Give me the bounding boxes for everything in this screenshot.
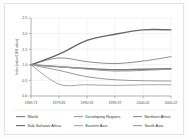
chart-legend: World Developing Regions Northern Africa…	[13, 110, 177, 128]
y-axis-title: Index (value/1969 value)	[15, 39, 19, 75]
x-axis-tick-labels: 1969-71 1979-81 1990-92 1995-97 2000-02 …	[24, 101, 177, 105]
x-tick-label: 2005-07	[164, 101, 177, 105]
x-axis-ticks	[31, 96, 171, 98]
chart-card: 2.5 2.0 1.5 1.0 0.5 0.0 Index (value/196…	[4, 3, 184, 135]
legend-label-world: World	[28, 114, 38, 119]
y-tick-label: 0.0	[22, 94, 27, 98]
line-chart-figure: 2.5 2.0 1.5 1.0 0.5 0.0 Index (value/196…	[5, 4, 183, 134]
screenshot-root: 2.5 2.0 1.5 1.0 0.5 0.0 Index (value/196…	[0, 0, 188, 138]
legend-label-south-asia: South Asia	[145, 123, 164, 128]
y-tick-label: 1.5	[22, 48, 27, 52]
y-tick-label: 0.5	[22, 79, 27, 83]
legend-label-sub-saharan-africa: Sub-Saharan Africa	[28, 123, 63, 128]
y-axis-tick-labels: 2.5 2.0 1.5 1.0 0.5 0.0	[22, 16, 27, 98]
x-tick-label: 2000-02	[136, 101, 149, 105]
x-tick-label: 1995-97	[108, 101, 121, 105]
y-tick-label: 1.0	[22, 63, 27, 67]
x-tick-label: 1969-71	[24, 101, 37, 105]
legend-label-northern-africa: Northern Africa	[145, 114, 172, 119]
y-tick-label: 2.5	[22, 16, 27, 20]
y-axis-ticks	[29, 18, 31, 96]
y-tick-label: 2.0	[22, 32, 27, 36]
x-tick-label: 1979-81	[52, 101, 65, 105]
x-tick-label: 1990-92	[80, 101, 93, 105]
legend-label-developing-regions: Developing Regions	[86, 114, 121, 119]
legend-label-eastern-asia: Eastern Asia	[86, 123, 109, 128]
